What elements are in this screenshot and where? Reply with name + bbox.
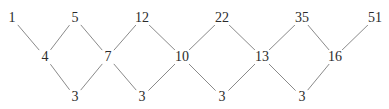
top-row-node: 35 (294, 11, 310, 25)
edge-line (188, 63, 215, 90)
middle-row-node: 10 (174, 50, 190, 64)
edge-line (188, 24, 215, 50)
edge-line (268, 63, 295, 90)
edge-line (228, 24, 255, 50)
edge-line (308, 25, 329, 50)
edge-line (341, 24, 368, 50)
bottom-row-node: 3 (71, 90, 80, 104)
bottom-row-node: 3 (218, 90, 227, 104)
middle-row-node: 4 (41, 50, 50, 64)
edge-line (308, 64, 330, 90)
middle-row-node: 7 (104, 50, 113, 64)
edge-line (268, 24, 295, 50)
edge-line (51, 25, 70, 50)
middle-row-node: 16 (327, 50, 343, 64)
top-row-node: 1 (8, 11, 17, 25)
edge-line (81, 64, 103, 90)
edge-line (148, 63, 175, 90)
edge-line (228, 63, 255, 90)
difference-diagram: 1512223551471013163333 (0, 0, 389, 109)
bottom-row-node: 3 (298, 90, 307, 104)
top-row-node: 22 (214, 11, 230, 25)
edge-line (81, 25, 102, 50)
edge-line (114, 25, 136, 50)
edge-line (114, 64, 136, 90)
edge-line (18, 25, 39, 50)
edge-line (148, 24, 175, 50)
middle-row-node: 13 (254, 50, 270, 64)
top-row-node: 5 (71, 11, 80, 25)
bottom-row-node: 3 (138, 90, 147, 104)
top-row-node: 12 (134, 11, 150, 25)
edge-line (50, 64, 69, 90)
top-row-node: 51 (367, 11, 383, 25)
